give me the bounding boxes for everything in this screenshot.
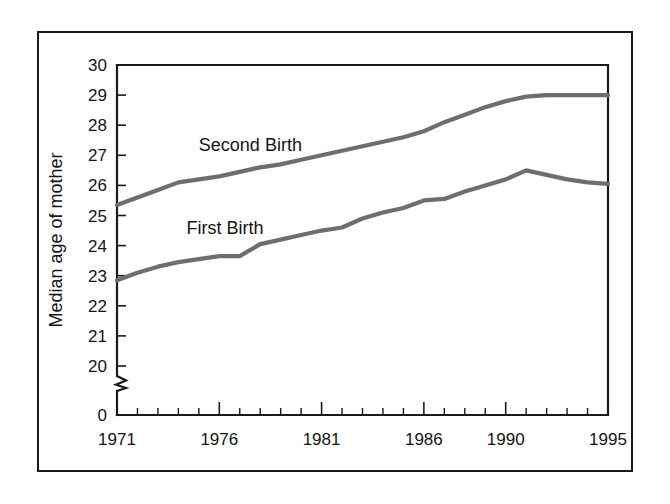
y-tick-label: 20 (88, 357, 107, 376)
y-tick-label: 30 (88, 56, 107, 75)
figure-root: Median age of mother 3029282726252423222… (0, 0, 670, 504)
x-tick-label: 1990 (487, 430, 525, 449)
x-axis-tick-labels: 197119761981198619901995 (98, 430, 627, 449)
y-tick-label: 26 (88, 176, 107, 195)
y-tick-label: 22 (88, 297, 107, 316)
line-chart: Median age of mother 3029282726252423222… (0, 0, 670, 504)
y-axis-break-icon (116, 376, 126, 391)
y-tick-label: 23 (88, 267, 107, 286)
y-tick-label: 21 (88, 327, 107, 346)
series-label-second-birth: Second Birth (199, 135, 302, 155)
series-line-second-birth (117, 95, 608, 205)
x-axis-ticks (117, 402, 608, 415)
x-tick-label: 1971 (98, 430, 136, 449)
y-tick-label: 27 (88, 146, 107, 165)
y-tick-label: 29 (88, 86, 107, 105)
y-tick-label-zero: 0 (98, 406, 107, 425)
y-tick-label: 25 (88, 207, 107, 226)
y-axis-ticks (117, 95, 126, 366)
series-group (117, 95, 608, 280)
x-tick-label: 1995 (589, 430, 627, 449)
x-tick-label: 1976 (200, 430, 238, 449)
series-label-group: Second BirthFirst Birth (187, 135, 302, 238)
y-tick-label: 24 (88, 237, 107, 256)
y-axis-title: Median age of mother (46, 152, 66, 327)
x-tick-label: 1986 (405, 430, 443, 449)
x-tick-label: 1981 (303, 430, 341, 449)
y-axis-tick-labels: 30292827262524232221200 (88, 56, 107, 425)
series-label-first-birth: First Birth (187, 218, 264, 238)
y-tick-label: 28 (88, 116, 107, 135)
